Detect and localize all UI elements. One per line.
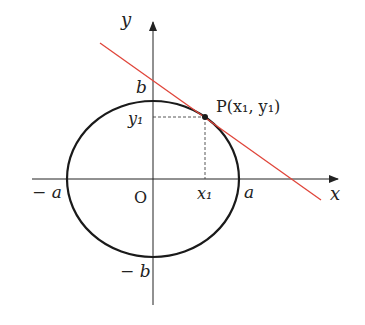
label-y1: y₁ [127, 109, 143, 128]
label-neg-b: − b [120, 261, 151, 281]
point-p [202, 114, 208, 120]
label-b: b [136, 77, 147, 97]
ellipse-tangent-diagram: y x O b − b − a a y₁ x₁ P(x₁, y₁) [0, 0, 365, 325]
y-axis-label: y [120, 9, 132, 30]
label-neg-a: − a [32, 182, 62, 202]
diagram-svg: y x O b − b − a a y₁ x₁ P(x₁, y₁) [0, 0, 365, 325]
label-a: a [244, 182, 254, 202]
origin-label: O [134, 188, 147, 207]
label-x1: x₁ [197, 184, 212, 203]
x-axis-label: x [330, 183, 340, 204]
point-p-label: P(x₁, y₁) [216, 97, 280, 116]
